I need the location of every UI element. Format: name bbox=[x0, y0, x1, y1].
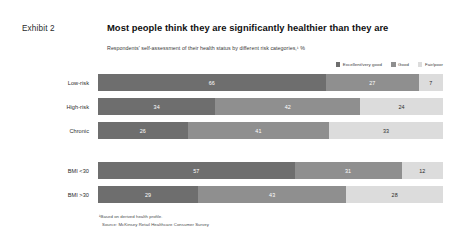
legend-label: Good bbox=[398, 62, 409, 67]
bar-segment: 27 bbox=[326, 74, 419, 91]
footnote-derived-health-profile: ¹Based on derived health profile. bbox=[99, 213, 439, 221]
bar-segment: 57 bbox=[98, 162, 295, 179]
chart-plot-area: Low-risk66277High-risk344224Chronic26413… bbox=[22, 74, 443, 208]
bar-segment: 29 bbox=[98, 186, 198, 203]
legend-label: Fair/poor bbox=[425, 62, 443, 67]
bar-segment: 24 bbox=[360, 98, 443, 115]
bar-segment-value: 26 bbox=[140, 128, 146, 134]
chart-row: BMI <30573112 bbox=[22, 162, 443, 179]
bar-segment: 41 bbox=[188, 122, 329, 139]
legend-item-good: Good bbox=[391, 62, 409, 67]
exhibit-number: Exhibit 2 bbox=[22, 24, 55, 33]
bar-segment-value: 66 bbox=[209, 80, 215, 86]
bar-segment-value: 12 bbox=[419, 168, 425, 174]
footnotes: ¹Based on derived health profile. Source… bbox=[99, 213, 439, 229]
footnote-source: Source: McKinsey Retail Healthcare Consu… bbox=[99, 221, 439, 229]
bar-segment-value: 57 bbox=[193, 168, 199, 174]
chart-row: Low-risk66277 bbox=[22, 74, 443, 91]
chart-row-label: High-risk bbox=[22, 104, 98, 110]
bar-segment-value: 7 bbox=[429, 80, 432, 86]
bar-segment: 33 bbox=[329, 122, 443, 139]
bar-segment-value: 29 bbox=[145, 192, 151, 198]
legend-swatch-icon bbox=[418, 62, 423, 67]
chart-row-label: Low-risk bbox=[22, 80, 98, 86]
bar-segment-value: 41 bbox=[255, 128, 261, 134]
legend-item-fair-poor: Fair/poor bbox=[418, 62, 443, 67]
chart-row-label: BMI >30 bbox=[22, 192, 98, 198]
bar-segment-value: 42 bbox=[285, 104, 291, 110]
bar-segment-value: 24 bbox=[398, 104, 404, 110]
chart-row: Chronic264133 bbox=[22, 122, 443, 139]
legend-swatch-icon bbox=[391, 62, 396, 67]
stacked-bar: 294328 bbox=[98, 186, 443, 203]
bar-segment: 66 bbox=[98, 74, 326, 91]
bar-segment: 34 bbox=[98, 98, 215, 115]
chart-row-label: Chronic bbox=[22, 128, 98, 134]
legend-item-excellent-very-good: Excellent/very good bbox=[336, 62, 382, 67]
bar-segment: 12 bbox=[402, 162, 443, 179]
bar-segment-value: 27 bbox=[369, 80, 375, 86]
bar-segment: 7 bbox=[419, 74, 443, 91]
chart-row-label: BMI <30 bbox=[22, 168, 98, 174]
bar-segment-value: 31 bbox=[345, 168, 351, 174]
bar-segment: 31 bbox=[295, 162, 402, 179]
bar-segment: 43 bbox=[198, 186, 346, 203]
legend-swatch-icon bbox=[336, 62, 341, 67]
bar-segment-value: 34 bbox=[154, 104, 160, 110]
bar-segment-value: 28 bbox=[392, 192, 398, 198]
stacked-bar: 573112 bbox=[98, 162, 443, 179]
exhibit-container: Exhibit 2 Most people think they are sig… bbox=[0, 0, 455, 250]
bar-segment: 28 bbox=[346, 186, 443, 203]
chart-legend: Excellent/very good Good Fair/poor bbox=[336, 62, 443, 67]
chart-row: BMI >30294328 bbox=[22, 186, 443, 203]
stacked-bar: 264133 bbox=[98, 122, 443, 139]
legend-label: Excellent/very good bbox=[343, 62, 382, 67]
chart-subtitle: Respondents' self-assessment of their he… bbox=[107, 45, 305, 51]
bar-segment: 42 bbox=[215, 98, 360, 115]
stacked-bar: 344224 bbox=[98, 98, 443, 115]
bar-segment-value: 33 bbox=[383, 128, 389, 134]
page-title: Most people think they are significantly… bbox=[107, 22, 388, 33]
bar-segment: 26 bbox=[98, 122, 188, 139]
chart-row: High-risk344224 bbox=[22, 98, 443, 115]
stacked-bar: 66277 bbox=[98, 74, 443, 91]
bar-segment-value: 43 bbox=[269, 192, 275, 198]
